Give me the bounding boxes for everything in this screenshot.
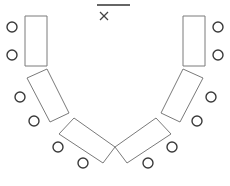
chair-icon [78, 158, 88, 168]
chair-icon [206, 92, 216, 102]
chair-icon [213, 50, 223, 60]
presenter-mark [100, 12, 108, 20]
chair-icon [143, 158, 153, 168]
seating-canvas [0, 0, 230, 186]
chair-icon [29, 116, 39, 126]
table-left-middle [27, 69, 69, 122]
chair-icon [7, 22, 17, 32]
chair-icon [213, 22, 223, 32]
table-right-bottom [115, 118, 171, 163]
seating-diagram [0, 0, 230, 186]
x-mark-icon [100, 12, 108, 20]
tables [25, 16, 205, 163]
chair-icon [192, 116, 202, 126]
chair-icon [53, 142, 63, 152]
chair-icon [167, 142, 177, 152]
chair-icon [15, 92, 25, 102]
table-left-top [25, 16, 47, 66]
chair-icon [7, 50, 17, 60]
table-right-top [183, 16, 205, 66]
table-left-bottom [59, 118, 115, 163]
table-right-middle [161, 69, 203, 122]
